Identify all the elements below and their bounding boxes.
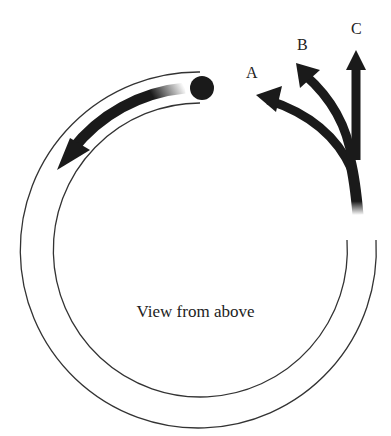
motion-arrow-icon bbox=[57, 88, 185, 170]
ball bbox=[190, 76, 214, 100]
arrowhead-c-icon bbox=[346, 50, 366, 70]
label-c: C bbox=[351, 20, 362, 38]
diagram-canvas bbox=[0, 0, 391, 436]
label-b: B bbox=[297, 36, 308, 54]
label-a: A bbox=[246, 64, 258, 82]
caption: View from above bbox=[0, 302, 391, 322]
track-inner-wall bbox=[53, 103, 347, 397]
